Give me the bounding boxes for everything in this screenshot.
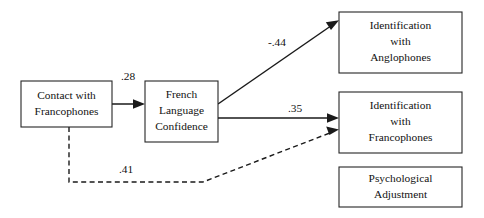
node-identification-with-francophones: Identification with Francophones xyxy=(339,92,462,153)
node-identification-with-anglophones: Identification with Anglophones xyxy=(339,12,462,73)
arrowhead-contact-confidence xyxy=(133,99,145,109)
node-psychological-adjustment: Psychological Adjustment xyxy=(339,167,462,207)
diagram-canvas: .28 -.44 .35 .41 Contact with Francophon… xyxy=(0,0,484,218)
path-diagram: .28 -.44 .35 .41 Contact with Francophon… xyxy=(0,0,484,218)
node-label-confidence-line3: Confidence xyxy=(155,120,208,132)
coefficient-label-confidence-francophones: .35 xyxy=(288,102,303,114)
node-label-francophones-line2: with xyxy=(390,115,411,127)
node-label-anglophones-line2: with xyxy=(390,35,411,47)
node-label-confidence-line2: Language xyxy=(159,104,204,116)
coefficient-label-contact-confidence: .28 xyxy=(121,70,136,82)
coefficient-label-confidence-anglophones: -.44 xyxy=(268,36,286,48)
coefficient-label-contact-francophones: .41 xyxy=(119,163,134,175)
path-confidence-to-anglophones: -.44 xyxy=(218,20,339,104)
node-contact-with-francophones: Contact with Francophones xyxy=(21,81,112,127)
node-label-francophones-line3: Francophones xyxy=(369,131,433,143)
path-contact-to-confidence: .28 xyxy=(112,70,145,109)
arrowhead-confidence-francophones xyxy=(327,113,339,123)
node-label-confidence-line1: French xyxy=(166,88,198,100)
node-label-contact-line2: Francophones xyxy=(35,105,99,117)
node-french-language-confidence: French Language Confidence xyxy=(145,81,218,142)
node-label-contact-line1: Contact with xyxy=(37,89,96,101)
node-label-anglophones-line3: Anglophones xyxy=(370,51,431,63)
node-label-psych-adjustment-line1: Psychological xyxy=(369,172,433,184)
node-label-francophones-line1: Identification xyxy=(370,99,432,111)
node-label-anglophones-line1: Identification xyxy=(370,19,432,31)
path-confidence-to-francophones: .35 xyxy=(218,102,339,123)
node-label-psych-adjustment-line2: Adjustment xyxy=(374,188,428,200)
